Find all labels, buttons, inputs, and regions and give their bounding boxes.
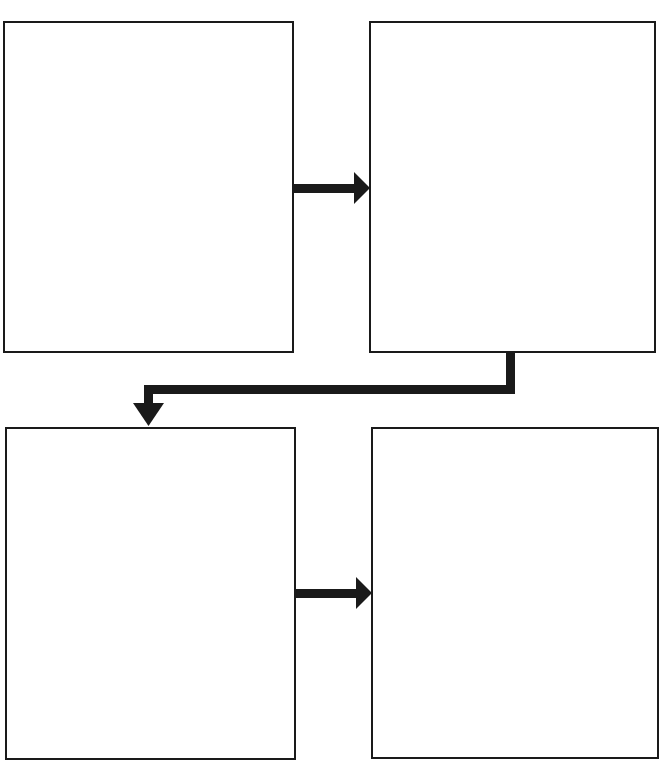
cutoff-header-text [0, 0, 665, 6]
flow-box-top-right [369, 21, 656, 353]
arrow-right-icon [293, 172, 370, 204]
arrow-elbow-down-icon [133, 352, 515, 426]
flow-box-top-left [3, 21, 294, 353]
flow-box-bottom-left [5, 427, 296, 760]
flow-box-bottom-right [371, 427, 659, 759]
arrow-right-icon [295, 577, 372, 609]
